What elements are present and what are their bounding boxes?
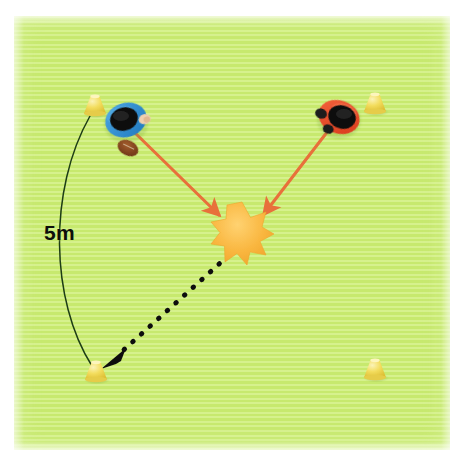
cone-top-left <box>83 94 109 118</box>
cone-bottom-left <box>84 360 110 384</box>
player-right-red <box>310 93 365 142</box>
run-arrow-right <box>264 127 331 214</box>
player-left-blue <box>101 96 154 159</box>
pass-arrow-dotted <box>101 256 228 369</box>
diagram-stage: 5m <box>0 0 464 467</box>
cone-bottom-right <box>363 358 389 382</box>
distance-measurement-5m: 5m <box>44 222 75 243</box>
run-arrow-left <box>131 129 219 215</box>
cone-top-right <box>363 92 389 116</box>
